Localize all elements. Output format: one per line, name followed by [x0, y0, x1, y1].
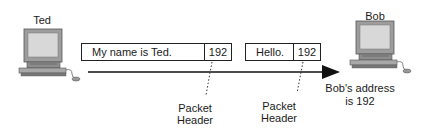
receiver-name-label: Bob: [360, 10, 390, 22]
packet-1-payload: My name is Ted.: [82, 44, 205, 60]
packet-header-label-2-line1: Packet: [254, 100, 304, 112]
data-flow-arrow: [88, 65, 340, 79]
receiver-address-note: Bob's address is 192: [320, 82, 400, 108]
packet-header-callout-line-1: [206, 62, 212, 95]
packet-header-label-1-line1: Packet: [170, 102, 220, 114]
packet-header-label-1-line2: Header: [170, 114, 220, 126]
packet-header-label-1: Packet Header: [170, 102, 220, 126]
arrowhead-icon: [322, 65, 340, 79]
packet-header-label-2: Packet Header: [254, 100, 304, 124]
packet-header-callout-line-2: [297, 62, 303, 93]
ted-computer-icon: [19, 29, 80, 81]
packet-1: My name is Ted. 192: [81, 43, 232, 61]
packet-1-header: 192: [205, 44, 231, 60]
packet-2: Hello. 192: [245, 43, 321, 61]
packet-2-payload: Hello.: [246, 44, 294, 60]
packet-2-header: 192: [294, 44, 320, 60]
sender-name-label: Ted: [30, 14, 54, 26]
receiver-address-note-line2: is 192: [320, 95, 400, 108]
receiver-address-note-line1: Bob's address: [320, 82, 400, 95]
bob-computer-icon: [350, 21, 411, 73]
packet-header-label-2-line2: Header: [254, 112, 304, 124]
